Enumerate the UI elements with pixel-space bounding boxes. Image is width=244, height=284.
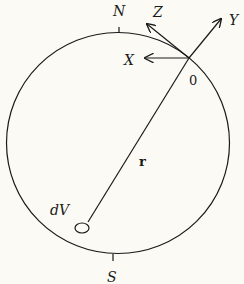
position-vector-r <box>88 58 189 222</box>
y-axis-arrow <box>189 19 221 58</box>
vector-r-label: r <box>139 154 146 169</box>
x-axis-label: X <box>123 52 135 68</box>
origin-label: 0 <box>189 73 197 88</box>
y-axis-label: Y <box>229 12 240 28</box>
z-axis-label: Z <box>152 4 163 20</box>
sphere-diagram: N S Z Y X 0 r dV <box>0 0 244 284</box>
south-label: S <box>107 269 117 284</box>
z-axis-arrow <box>147 24 189 58</box>
volume-element-dv <box>75 223 89 233</box>
north-label: N <box>112 3 126 19</box>
volume-element-label: dV <box>50 202 71 218</box>
sphere-outline <box>7 33 230 254</box>
